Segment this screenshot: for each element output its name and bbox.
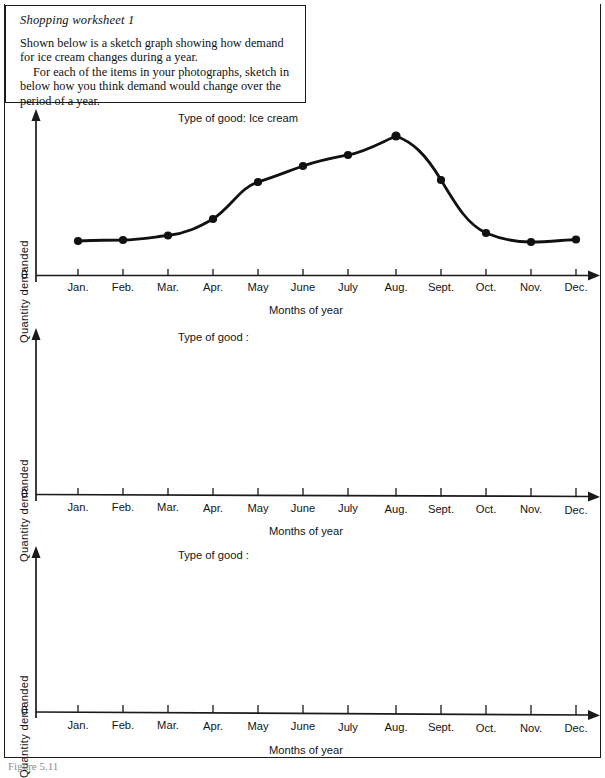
data-point-feb <box>119 236 127 244</box>
data-point-nov <box>527 238 535 246</box>
worksheet-instruction-box: Shopping worksheet 1 Shown below is a sk… <box>5 5 306 103</box>
tick-label-jan: Jan. <box>67 501 88 513</box>
figure-caption: Figure 5.11 <box>8 760 58 772</box>
tick-label-july: July <box>338 721 358 733</box>
tick-label-sept: Sept. <box>428 503 454 515</box>
type-of-good-heading: Type of good: Ice cream <box>178 112 298 124</box>
chart-ice-cream: Quantity demanded 0 Type of good: Ice cr… <box>0 106 605 318</box>
chart-blank-1[interactable]: Quantity demanded 0 Type of good : Jan. <box>0 325 605 537</box>
x-axis-label: Months of year <box>216 304 396 316</box>
data-point-dec <box>572 235 580 243</box>
x-axis-tick-labels: Jan. Feb. Mar. Apr. May June July Aug. S… <box>67 501 587 516</box>
tick-label-july: July <box>338 281 358 293</box>
tick-label-sept: Sept. <box>428 281 454 293</box>
chart-plot-area: Jan. Feb. Mar. Apr. May June July Aug. S… <box>0 106 605 318</box>
tick-label-dec: Dec. <box>564 722 587 734</box>
tick-label-may: May <box>247 502 269 514</box>
data-point-jan <box>74 237 82 245</box>
type-of-good-heading[interactable]: Type of good : <box>178 549 249 561</box>
tick-label-oct: Oct. <box>476 503 497 515</box>
x-axis <box>36 492 600 502</box>
tick-label-apr: Apr. <box>203 720 223 732</box>
worksheet-paragraph-2: For each of the items in your photograph… <box>20 65 294 108</box>
x-axis-tick-labels: Jan. Feb. Mar. Apr. May June July Aug. S… <box>67 719 587 734</box>
y-axis <box>32 546 41 718</box>
tick-label-june: June <box>291 720 315 732</box>
tick-label-june: June <box>291 281 315 293</box>
data-point-sept <box>437 176 445 184</box>
worksheet-paragraph-1: Shown below is a sketch graph showing ho… <box>20 36 294 65</box>
y-axis-origin-label: 0 <box>21 704 28 718</box>
tick-label-aug: Aug. <box>384 281 407 293</box>
tick-label-apr: Apr. <box>203 502 223 514</box>
tick-label-nov: Nov. <box>520 503 542 515</box>
y-axis <box>32 109 41 282</box>
data-point-may <box>254 178 262 186</box>
tick-label-june: June <box>291 502 315 514</box>
tick-label-mar: Mar. <box>157 501 179 513</box>
tick-label-may: May <box>247 720 269 732</box>
tick-label-aug: Aug. <box>384 503 407 515</box>
worksheet-title: Shopping worksheet 1 <box>20 13 294 28</box>
type-of-good-heading[interactable]: Type of good : <box>178 331 249 343</box>
tick-label-may: May <box>247 281 269 293</box>
y-axis <box>32 328 41 501</box>
data-point-apr <box>209 215 217 223</box>
tick-label-mar: Mar. <box>157 719 179 731</box>
chart-plot-area[interactable]: Jan. Feb. Mar. Apr. May June July Aug. S… <box>0 325 605 537</box>
x-axis-label: Months of year <box>216 525 396 537</box>
tick-label-oct: Oct. <box>476 722 497 734</box>
tick-label-oct: Oct. <box>476 281 497 293</box>
chart-blank-2[interactable]: Quantity demanded 0 Type of good : Jan. <box>0 541 605 753</box>
y-axis-origin-label: 0 <box>21 487 28 501</box>
data-point-aug <box>391 131 400 140</box>
x-axis-label: Months of year <box>216 744 396 756</box>
tick-label-feb: Feb. <box>112 281 134 293</box>
x-axis-tick-labels: Jan. Feb. Mar. Apr. May June July Aug. S… <box>67 281 587 293</box>
data-point-oct <box>482 229 490 237</box>
tick-label-aug: Aug. <box>384 721 407 733</box>
footer-divider <box>4 757 601 758</box>
data-point-june <box>299 162 307 170</box>
tick-label-mar: Mar. <box>157 281 179 293</box>
tick-label-nov: Nov. <box>520 722 542 734</box>
data-point-mar <box>164 231 172 239</box>
y-axis-origin-label: 0 <box>21 268 28 282</box>
data-point-july <box>344 151 352 159</box>
tick-label-feb: Feb. <box>112 719 134 731</box>
tick-label-dec: Dec. <box>564 281 587 293</box>
tick-label-dec: Dec. <box>564 504 587 516</box>
tick-label-jan: Jan. <box>67 719 88 731</box>
tick-label-apr: Apr. <box>203 281 223 293</box>
tick-label-feb: Feb. <box>112 501 134 513</box>
data-point-markers <box>74 131 580 246</box>
x-axis <box>36 271 600 281</box>
tick-label-nov: Nov. <box>520 281 542 293</box>
tick-label-jan: Jan. <box>67 281 88 293</box>
chart-plot-area[interactable]: Jan. Feb. Mar. Apr. May June July Aug. S… <box>0 541 605 753</box>
demand-curve <box>78 136 576 242</box>
tick-label-july: July <box>338 502 358 514</box>
tick-label-sept: Sept. <box>428 721 454 733</box>
